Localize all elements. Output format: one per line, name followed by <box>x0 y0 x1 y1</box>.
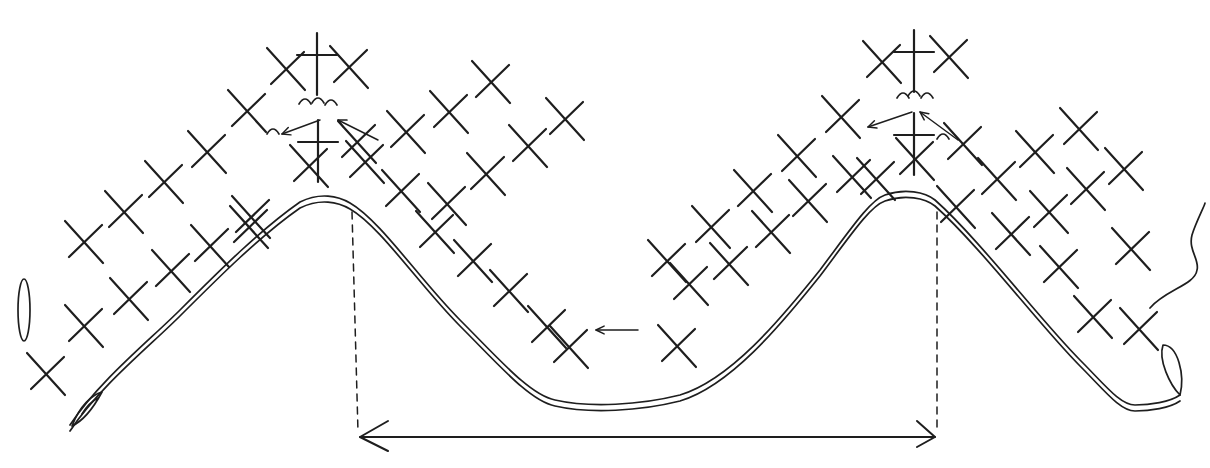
treble-crochet-stitches <box>297 30 934 182</box>
sc-x-icon <box>710 243 748 285</box>
sc-x-icon <box>752 211 790 253</box>
sc-x-icon <box>992 213 1030 255</box>
sc-x-icon <box>789 180 827 222</box>
sc-x-icon <box>65 221 103 263</box>
join-mark-icon <box>299 99 311 104</box>
sc-x-icon <box>65 305 103 347</box>
direction-arrow-icon <box>282 120 320 135</box>
single-crochet-stitches <box>27 36 1158 395</box>
sc-x-icon <box>290 145 328 187</box>
sc-x-icon <box>734 170 772 212</box>
sc-x-icon <box>152 250 190 292</box>
sc-x-icon <box>27 353 65 395</box>
sc-x-icon <box>1074 296 1112 338</box>
sc-x-icon <box>1040 246 1078 288</box>
sc-x-icon <box>509 125 547 167</box>
sc-x-icon <box>546 98 584 140</box>
sc-x-icon <box>1105 148 1143 190</box>
sc-x-icon <box>1067 168 1105 210</box>
sc-x-icon <box>110 278 148 320</box>
sc-x-icon <box>1120 308 1158 350</box>
loop-ends <box>18 203 1205 426</box>
sc-x-icon <box>191 225 229 267</box>
sc-x-icon <box>692 206 730 248</box>
sc-x-icon <box>330 46 368 88</box>
sc-x-icon <box>472 61 510 103</box>
join-mark-icon <box>267 129 279 134</box>
join-mark-icon <box>921 93 933 98</box>
sc-x-icon <box>930 36 968 78</box>
repeat-width-arrow-icon <box>360 421 935 451</box>
sc-x-icon <box>1030 191 1068 233</box>
sc-x-icon <box>467 153 505 195</box>
sc-x-icon <box>188 131 226 173</box>
sc-x-icon <box>833 156 871 198</box>
repeat-boundary-left <box>352 212 358 432</box>
sc-x-icon <box>230 206 268 248</box>
repeat-markers <box>352 212 937 451</box>
sc-x-icon <box>863 41 901 83</box>
sc-x-icon <box>1112 228 1150 270</box>
sc-x-icon <box>550 326 588 368</box>
treble-cross-icon <box>297 33 337 95</box>
sc-x-icon <box>658 325 696 367</box>
sc-x-icon <box>346 141 384 183</box>
sc-x-icon <box>428 183 466 225</box>
sc-x-icon <box>145 161 183 203</box>
sc-x-icon <box>648 240 686 282</box>
yarn-tail-icon <box>1150 203 1205 308</box>
sc-x-icon <box>1016 131 1054 173</box>
join-mark-icon <box>908 91 920 96</box>
sc-x-icon <box>387 111 425 153</box>
end-loop-icon <box>1162 345 1182 395</box>
sc-x-icon <box>454 240 492 282</box>
sc-x-icon <box>944 123 982 165</box>
sc-x-icon <box>978 158 1016 200</box>
start-loop-icon <box>18 279 30 341</box>
foundation-chain <box>70 191 1180 431</box>
join-mark-icon <box>937 134 949 139</box>
direction-arrow-icon <box>338 120 378 140</box>
sc-x-icon <box>490 270 528 312</box>
sc-x-icon <box>528 306 566 348</box>
crochet-chart <box>0 0 1210 468</box>
direction-arrow-icon <box>868 112 912 128</box>
direction-arrow-icon <box>596 326 638 334</box>
sc-x-icon <box>1060 108 1098 150</box>
join-mark-icon <box>897 93 909 98</box>
join-mark-icon <box>325 100 337 105</box>
sc-x-icon <box>105 191 143 233</box>
sc-x-icon <box>382 170 420 212</box>
sc-x-icon <box>430 91 468 133</box>
sc-x-icon <box>232 196 270 238</box>
join-mark-icon <box>312 98 324 103</box>
sc-x-icon <box>822 96 860 138</box>
sc-x-icon <box>778 135 816 177</box>
sc-x-icon <box>228 90 266 132</box>
chain-strand-a <box>70 191 1180 425</box>
